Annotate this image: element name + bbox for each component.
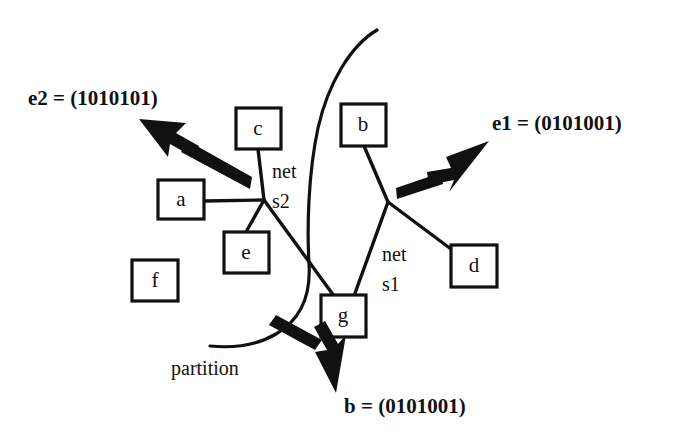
cell-b[interactable]: b [341, 104, 386, 146]
net-s1-label-line2: s1 [382, 273, 400, 295]
cell-label-d: d [469, 253, 480, 277]
net-s1-wires [354, 146, 455, 296]
cell-label-e: e [241, 240, 250, 264]
e2-annotation-label: e2 = (1010101) [28, 86, 158, 110]
cell-label-c: c [253, 116, 262, 140]
net-s1-label: net s1 [382, 243, 407, 295]
partition-annotation-label: partition [171, 357, 239, 380]
e1-arrow-shaft [396, 173, 443, 199]
wire-b-to-s1 [364, 146, 388, 202]
wire-s2-to-g [264, 200, 334, 296]
figure-canvas: a c e f b d g net s2 [0, 0, 680, 443]
e1-arrow [396, 141, 489, 199]
cell-f[interactable]: f [132, 260, 178, 301]
b-vector-annotation-label: b = (0101001) [344, 394, 466, 418]
cell-label-a: a [176, 187, 186, 211]
wire-c-to-s2 [258, 149, 264, 200]
cell-a[interactable]: a [158, 180, 204, 219]
net-s2-label-line2: s2 [272, 190, 290, 212]
cell-c[interactable]: c [236, 108, 281, 149]
wire-e-to-s2 [246, 200, 264, 232]
net-s2-label-line1: net [272, 160, 297, 182]
cell-label-b: b [358, 112, 369, 136]
cell-d[interactable]: d [451, 245, 497, 287]
cell-e[interactable]: e [224, 232, 269, 273]
net-s2-label: net s2 [272, 160, 297, 212]
wire-a-to-s2 [204, 200, 264, 201]
cell-label-f: f [152, 268, 159, 292]
cell-label-g: g [338, 303, 349, 327]
diagram-svg: a c e f b d g net s2 [0, 0, 680, 443]
e1-annotation-label: e1 = (0101001) [492, 111, 622, 135]
net-s1-label-line1: net [382, 243, 407, 265]
